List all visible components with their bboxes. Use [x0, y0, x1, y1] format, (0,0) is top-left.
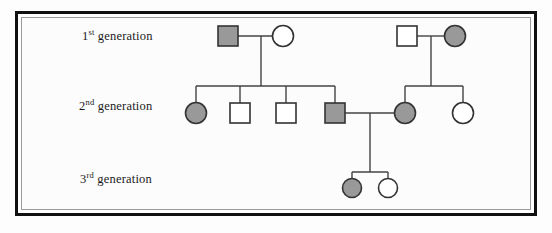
individual-II-5-female-affected [395, 103, 416, 124]
generation-3-ordinal-suffix: rd [86, 170, 93, 180]
individual-I-3-male-unaffected [397, 26, 417, 46]
individual-III-2-female-unaffected [379, 179, 398, 198]
generation-2-ordinal-suffix: nd [85, 97, 94, 107]
generation-3-word: generation [97, 172, 152, 186]
generation-1-ordinal-suffix: st [88, 27, 94, 37]
sibship-line-gen3 [352, 172, 388, 179]
individual-II-2-male-unaffected [230, 103, 250, 123]
individual-I-4-female-affected [445, 26, 466, 47]
individual-II-6-female-unaffected [453, 103, 474, 124]
individual-II-4-male-affected [325, 103, 345, 123]
generation-2-word: generation [98, 99, 153, 113]
mating-line-gen1-right [417, 36, 445, 86]
sibship-line-gen2-left [196, 86, 335, 103]
generation-1-label: 1st generation [82, 29, 153, 44]
individual-II-3-male-unaffected [276, 103, 296, 123]
mating-line-gen2 [345, 113, 395, 172]
individual-I-1-male-affected [218, 26, 238, 46]
pedigree-figure: 1st generation 2nd generation 3rd genera… [0, 0, 552, 233]
individual-I-2-female-unaffected [273, 26, 294, 47]
generation-1-word: generation [98, 29, 153, 43]
individual-III-1-female-affected [343, 179, 362, 198]
sibship-line-gen2-right [405, 86, 463, 103]
generation-3-label: 3rd generation [80, 172, 152, 187]
generation-2-label: 2nd generation [79, 99, 152, 114]
individual-II-1-female-affected [186, 103, 207, 124]
